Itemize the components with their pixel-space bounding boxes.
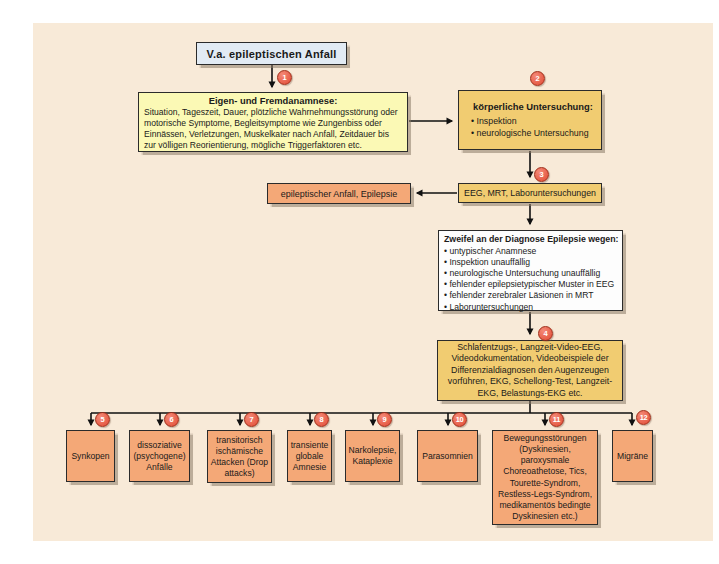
step-circle-9: 9: [377, 412, 392, 427]
step-circle-6: 6: [164, 412, 179, 427]
diff-box-bewegungsstoerungen: Bewegungsstörungen (Dyskinesien, paroxys…: [492, 430, 598, 525]
step-circle-11: 11: [549, 412, 564, 427]
zweifel-box: Zweifel an der Diagnose Epilepsie wegen:…: [438, 230, 623, 311]
diff-box-tia: transitorisch ischämische Attacken (Drop…: [207, 430, 272, 483]
diff-box-parasomnien: Parasomnien: [417, 430, 478, 482]
diff-box-synkopen: Synkopen: [66, 430, 115, 482]
zweifel-bullet-5: fehlender zerebraler Läsionen in MRT: [444, 290, 617, 301]
step-circle-5: 5: [95, 412, 110, 427]
step-circle-7: 7: [244, 412, 259, 427]
step-circle-12: 12: [636, 410, 651, 425]
eeg-mrt-labor-box: EEG, MRT, Laboruntersuchungen: [458, 183, 602, 203]
step-circle-8: 8: [314, 412, 329, 427]
untersuchung-bullet-2: neurologische Untersuchung: [471, 127, 595, 139]
step-circle-1: 1: [277, 70, 292, 85]
diff-box-dissoziative: dissoziative (psychogene) Anfälle: [129, 430, 190, 482]
step-circle-2: 2: [530, 71, 545, 86]
start-label: V.a. epileptischen Anfall: [206, 48, 336, 60]
anamnese-box: Eigen- und Fremdanamnese: Situation, Tag…: [138, 92, 408, 152]
zweifel-bullet-3: neurologische Untersuchung unauffällig: [444, 268, 617, 279]
diff-box-migraene: Migräne: [612, 430, 653, 482]
epilepsie-result-box: epileptischer Anfall, Epilepsie: [267, 183, 411, 204]
eeg-mrt-labor-label: EEG, MRT, Laboruntersuchungen: [464, 188, 596, 198]
untersuchung-bullet-1: Inspektion: [471, 115, 595, 127]
untersuchung-box: körperliche Untersuchung: Inspektion neu…: [458, 90, 602, 150]
zweifel-bullet-1: untypischer Anamnese: [444, 246, 617, 257]
zweifel-bullet-2: Inspektion unauffällig: [444, 257, 617, 268]
step-circle-10: 10: [452, 412, 467, 427]
anamnese-title: Eigen- und Fremdanamnese:: [144, 95, 402, 107]
weitere-diagnostik-box: Schlafentzugs-, Langzeit-Video-EEG, Vide…: [437, 340, 623, 401]
zweifel-title: Zweifel an der Diagnose Epilepsie wegen:: [444, 234, 617, 246]
step-circle-4: 4: [538, 326, 553, 341]
zweifel-bullet-6: Laboruntersuchungen: [444, 302, 617, 313]
zweifel-bullet-4: fehlender epilepsietypischer Muster in E…: [444, 279, 617, 290]
epilepsie-result-label: epileptischer Anfall, Epilepsie: [281, 189, 398, 199]
anamnese-body: Situation, Tageszeit, Dauer, plötzliche …: [144, 107, 402, 151]
diff-box-narkolepsie: Narkolepsie, Kataplexie: [345, 430, 400, 482]
weitere-diagnostik-body: Schlafentzugs-, Langzeit-Video-EEG, Vide…: [447, 342, 613, 399]
untersuchung-title: körperliche Untersuchung:: [471, 100, 595, 113]
diff-box-amnesie: transiente globale Amnesie: [287, 430, 332, 482]
step-circle-3: 3: [534, 167, 549, 182]
start-node: V.a. epileptischen Anfall: [196, 42, 347, 65]
